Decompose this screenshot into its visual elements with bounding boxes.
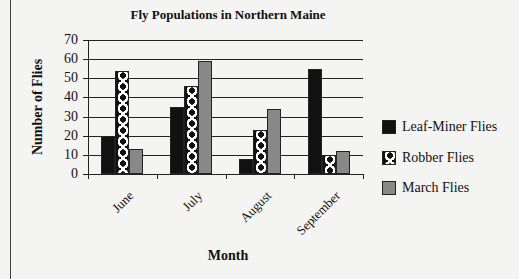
bar-robber-flies-september <box>322 155 336 174</box>
y-tick-label: 40 <box>48 90 78 104</box>
x-tick <box>363 174 364 179</box>
bar-leaf-miner-flies-september <box>308 69 322 174</box>
y-tick <box>83 155 88 156</box>
x-axis-label: Month <box>0 248 456 264</box>
y-tick <box>83 59 88 60</box>
x-category-label: September <box>293 188 344 239</box>
y-tick <box>83 97 88 98</box>
legend-swatch-robber <box>382 151 396 165</box>
legend-label: March Flies <box>402 180 469 196</box>
legend-swatch-march <box>382 181 396 195</box>
gridline <box>88 40 363 41</box>
y-tick-label: 10 <box>48 148 78 162</box>
bar-robber-flies-june <box>115 71 129 174</box>
y-tick <box>83 78 88 79</box>
bar-robber-flies-july <box>184 86 198 174</box>
y-tick-label: 70 <box>48 33 78 47</box>
bar-march-flies-august <box>267 109 281 174</box>
x-category-label: August <box>237 188 275 226</box>
chart-title: Fly Populations in Northern Maine <box>0 7 456 23</box>
gridline <box>88 59 363 60</box>
legend-label: Robber Flies <box>402 150 474 166</box>
bar-leaf-miner-flies-august <box>239 159 253 174</box>
x-tick <box>157 174 158 179</box>
y-axis-label: Number of Flies <box>30 59 46 155</box>
legend-item-robber: Robber Flies <box>382 151 474 165</box>
y-tick <box>83 40 88 41</box>
y-tick-label: 60 <box>48 52 78 66</box>
legend-item-march: March Flies <box>382 181 469 195</box>
y-tick-label: 20 <box>48 129 78 143</box>
y-tick <box>83 117 88 118</box>
bar-leaf-miner-flies-july <box>170 107 184 174</box>
x-tick <box>88 174 89 179</box>
y-tick <box>83 136 88 137</box>
x-tick <box>294 174 295 179</box>
legend-swatch-leaf-miner <box>382 120 396 134</box>
legend-label: Leaf-Miner Flies <box>402 119 497 135</box>
y-tick-label: 30 <box>48 110 78 124</box>
x-category-label: July <box>179 188 206 215</box>
page-left-border <box>10 0 11 279</box>
bar-march-flies-june <box>129 149 143 174</box>
x-tick <box>226 174 227 179</box>
plot-area <box>88 40 363 174</box>
x-category-label: June <box>109 188 137 216</box>
bar-leaf-miner-flies-june <box>101 136 115 174</box>
bar-robber-flies-august <box>253 130 267 174</box>
bar-march-flies-september <box>336 151 350 174</box>
legend-item-leaf-miner: Leaf-Miner Flies <box>382 120 497 134</box>
bar-march-flies-july <box>198 61 212 174</box>
y-tick-label: 0 <box>48 167 78 181</box>
y-tick-label: 50 <box>48 71 78 85</box>
